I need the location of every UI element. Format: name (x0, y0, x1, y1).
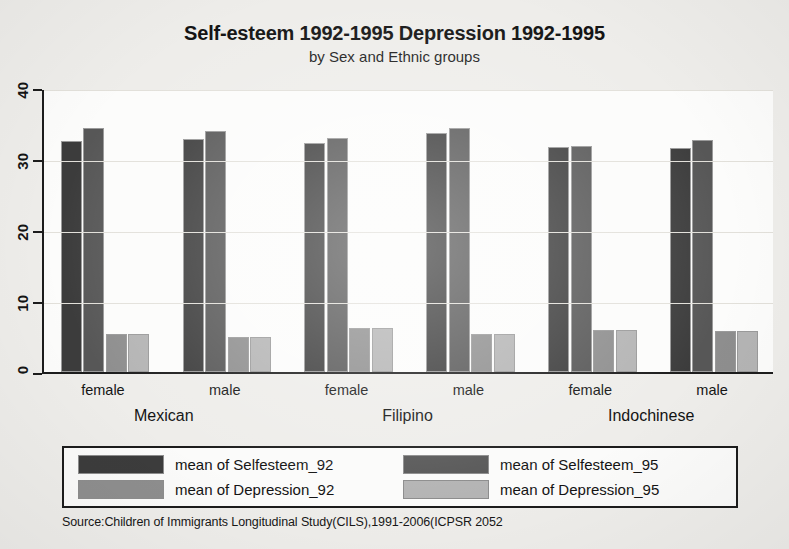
bar (471, 334, 492, 372)
bar (616, 330, 637, 372)
x-axis-sex-label: female (568, 382, 612, 398)
bar (494, 334, 515, 372)
y-axis-tick (33, 231, 42, 233)
bar (183, 139, 204, 372)
plot-area (42, 90, 773, 374)
legend-item: mean of Selfesteem_92 (78, 455, 403, 474)
plot-wrapper: 010203040 (42, 90, 773, 374)
bar (426, 133, 447, 372)
bar (670, 148, 691, 372)
legend-label: mean of Depression_95 (500, 481, 659, 498)
y-axis-tick (33, 302, 42, 304)
title-block: Self-esteem 1992-1995 Depression 1992-19… (0, 22, 789, 65)
bar (692, 140, 713, 372)
bar (205, 131, 226, 372)
legend-label: mean of Selfesteem_95 (500, 456, 658, 473)
bar (571, 146, 592, 372)
bar (83, 128, 104, 372)
bar (715, 331, 736, 372)
bar (250, 337, 271, 372)
legend-item: mean of Depression_95 (403, 480, 728, 499)
bar (548, 147, 569, 372)
legend-swatch (403, 455, 489, 474)
page-title: Self-esteem 1992-1995 Depression 1992-19… (0, 22, 789, 44)
x-axis-sex-label: female (81, 382, 125, 398)
x-axis-group-label: Filipino (382, 407, 433, 425)
source-note: Source:Children of Immigrants Longitudin… (62, 515, 503, 529)
legend-swatch (403, 480, 489, 499)
x-axis-group-label: Mexican (134, 407, 194, 425)
chart-subtitle: by Sex and Ethnic groups (0, 48, 789, 65)
x-axis-sex-label: male (209, 382, 240, 398)
legend-swatch (78, 455, 164, 474)
bar (327, 138, 348, 372)
y-axis-tick (33, 160, 42, 162)
legend-item: mean of Depression_92 (78, 480, 403, 499)
y-axis-tick (33, 89, 42, 91)
legend-swatch (78, 480, 164, 499)
bars-layer (44, 90, 773, 372)
x-axis-group-label: Indochinese (608, 407, 694, 425)
y-axis-tick (33, 373, 42, 375)
gridline (44, 90, 773, 91)
gridline (44, 232, 773, 233)
bar (593, 330, 614, 372)
bar (61, 141, 82, 372)
bar (128, 334, 149, 372)
legend: mean of Selfesteem_92mean of Selfesteem_… (62, 446, 738, 508)
bar (372, 328, 393, 372)
bar (304, 143, 325, 372)
gridline (44, 303, 773, 304)
x-axis-sex-label: female (325, 382, 369, 398)
bar (737, 331, 758, 372)
bar (449, 128, 470, 372)
bar (228, 337, 249, 372)
x-axis-sex-label: male (453, 382, 484, 398)
bar (106, 334, 127, 372)
legend-label: mean of Depression_92 (175, 481, 334, 498)
gridline (44, 161, 773, 162)
legend-item: mean of Selfesteem_95 (403, 455, 728, 474)
legend-label: mean of Selfesteem_92 (175, 456, 333, 473)
bar (349, 328, 370, 372)
x-axis-sex-label: male (696, 382, 727, 398)
